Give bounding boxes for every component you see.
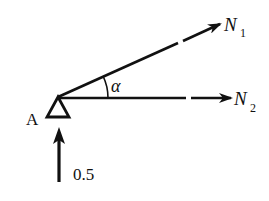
node-a-label: A bbox=[26, 110, 39, 129]
pin-support-icon bbox=[47, 97, 69, 117]
n2-label: N bbox=[233, 88, 248, 109]
n1-subscript: 1 bbox=[240, 26, 246, 40]
reaction-value-label: 0.5 bbox=[73, 165, 94, 184]
n2-subscript: 2 bbox=[250, 101, 256, 115]
n1-label: N bbox=[223, 14, 238, 35]
alpha-label: α bbox=[111, 76, 121, 96]
free-body-diagram: A N 1 N 2 α 0.5 bbox=[0, 0, 269, 201]
angle-alpha-arc bbox=[103, 76, 108, 98]
reaction-force-arrow bbox=[53, 127, 65, 182]
force-n1-arrow bbox=[58, 24, 220, 97]
